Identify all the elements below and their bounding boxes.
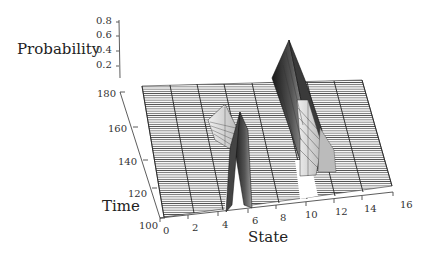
z-tick: 0.6	[96, 29, 112, 40]
z-tick: 0.4	[96, 44, 112, 55]
z-tick: 0.8	[96, 15, 112, 26]
z-tick: 0.2	[96, 59, 112, 70]
y-tick: 180	[97, 88, 116, 99]
y-tick: 160	[108, 123, 127, 134]
y-tick: 140	[118, 156, 137, 167]
y-tick: 100	[139, 220, 158, 231]
x-tick: 14	[364, 203, 377, 214]
x-tick: 4	[222, 219, 228, 230]
x-tick: 12	[335, 206, 348, 217]
x-tick: 16	[400, 199, 413, 210]
x-axis-title: State	[248, 228, 288, 246]
z-axis-title: Probability	[17, 40, 100, 58]
y-tick: 120	[128, 188, 147, 199]
surface-plot	[0, 0, 429, 255]
x-tick: 0	[163, 225, 169, 236]
x-tick: 2	[192, 222, 198, 233]
x-tick: 6	[252, 215, 258, 226]
y-axis-title: Time	[102, 197, 140, 215]
x-tick: 8	[280, 212, 286, 223]
x-tick: 10	[305, 209, 318, 220]
